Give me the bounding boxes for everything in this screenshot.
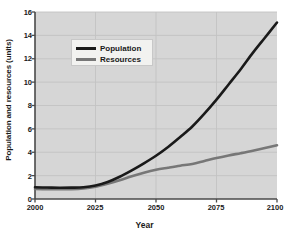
x-axis-title: Year [0,220,289,230]
x-tick-2000: 2000 [27,203,44,212]
legend-item-resources: Resources [76,53,141,65]
chart-legend: Population Resources [71,39,153,66]
x-tick-2100: 2100 [267,203,284,212]
legend-swatch-resources [76,58,96,61]
legend-label-resources: Resources [100,55,141,64]
legend-swatch-population [76,47,96,50]
x-tick-2075: 2075 [208,203,225,212]
legend-label-population: Population [100,44,141,53]
population-resources-line-chart: Population and resources (units) 16 14 1… [0,0,289,234]
x-tick-2025: 2025 [87,203,104,212]
x-tick-2050: 2050 [148,203,165,212]
plot-area-svg [0,0,289,234]
